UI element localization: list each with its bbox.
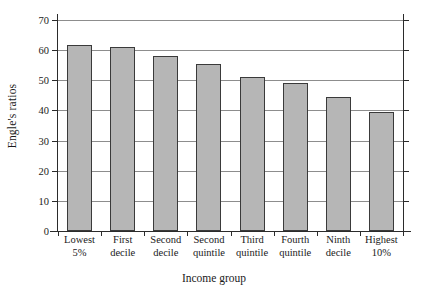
y-axis-tick-label: 40 bbox=[39, 105, 50, 116]
x-axis-label-line: decile bbox=[144, 247, 187, 260]
x-axis-label-line: decile bbox=[101, 247, 144, 260]
y-axis-title-text: Engle's ratios bbox=[6, 84, 18, 149]
x-axis-category-labels: Lowest5%FirstdecileSeconddecileSecondqui… bbox=[58, 234, 403, 264]
x-axis-category-label: Firstdecile bbox=[101, 234, 144, 259]
x-axis-category-label: Thirdquintile bbox=[231, 234, 274, 259]
bar bbox=[67, 45, 92, 231]
x-axis-tick bbox=[403, 231, 404, 236]
bar bbox=[326, 97, 351, 231]
x-axis-label-line: Highest bbox=[360, 234, 403, 247]
x-axis-label-line: Third bbox=[231, 234, 274, 247]
x-axis-category-label: Lowest5% bbox=[58, 234, 101, 259]
x-axis-label-line: quintile bbox=[274, 247, 317, 260]
x-axis-title: Income group bbox=[0, 272, 428, 284]
bar-chart-figure: Engle's ratios 010203040506070 Lowest5%F… bbox=[0, 0, 428, 296]
y-axis-tick-label: 70 bbox=[39, 15, 50, 26]
y-axis-tick-label: 50 bbox=[39, 75, 50, 86]
x-axis-category-label: Fourthquintile bbox=[274, 234, 317, 259]
plot-area: 010203040506070 bbox=[58, 20, 403, 231]
bar bbox=[369, 112, 394, 231]
bar bbox=[240, 77, 265, 231]
x-axis-label-line: Lowest bbox=[58, 234, 101, 247]
x-axis-title-text: Income group bbox=[182, 272, 246, 284]
x-axis-label-line: First bbox=[101, 234, 144, 247]
x-axis-category-label: Highest10% bbox=[360, 234, 403, 259]
y-axis-tick-label: 60 bbox=[39, 45, 50, 56]
x-axis-label-line: Second bbox=[144, 234, 187, 247]
x-axis-label-line: Second bbox=[187, 234, 230, 247]
x-axis-category-label: Secondquintile bbox=[187, 234, 230, 259]
bars-group bbox=[58, 20, 403, 231]
bar bbox=[110, 47, 135, 231]
bar bbox=[283, 83, 308, 231]
y-axis-title: Engle's ratios bbox=[0, 0, 24, 232]
x-axis-label-line: 5% bbox=[58, 247, 101, 260]
x-axis-category-label: Seconddecile bbox=[144, 234, 187, 259]
y-axis-tick-label: 20 bbox=[39, 165, 50, 176]
y-axis-tick-label: 0 bbox=[44, 226, 49, 237]
y-axis-tick-label: 30 bbox=[39, 135, 50, 146]
x-axis-label-line: 10% bbox=[360, 247, 403, 260]
x-axis-label-line: Ninth bbox=[317, 234, 360, 247]
x-axis-label-line: decile bbox=[317, 247, 360, 260]
y-axis-tick-label: 10 bbox=[39, 195, 50, 206]
bar bbox=[153, 56, 178, 231]
bar bbox=[196, 64, 221, 231]
y-axis-spine bbox=[57, 14, 58, 231]
x-axis-label-line: quintile bbox=[231, 247, 274, 260]
x-axis-category-label: Ninthdecile bbox=[317, 234, 360, 259]
x-axis-label-line: quintile bbox=[187, 247, 230, 260]
x-axis-label-line: Fourth bbox=[274, 234, 317, 247]
right-axis-spine bbox=[403, 14, 404, 231]
